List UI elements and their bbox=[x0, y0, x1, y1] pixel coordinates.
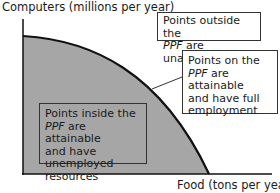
y-axis-label: Computers (millions per year) bbox=[2, 1, 174, 14]
annotation-text: PPF are attainable bbox=[45, 121, 141, 146]
annotation-text: and have unemployed bbox=[45, 146, 141, 171]
x-axis-label: Food (tons per year) bbox=[177, 179, 280, 192]
annotation-on: Points on the PPF are attainable and hav… bbox=[182, 50, 278, 114]
leader-line bbox=[152, 77, 182, 89]
annotation-text: resources bbox=[45, 171, 141, 184]
annotation-text: employment bbox=[188, 105, 272, 118]
annotation-inside: Points inside the PPF are attainable and… bbox=[39, 103, 147, 164]
annotation-outside: Points outside the PPF are unattainable bbox=[157, 12, 261, 41]
annotation-text: Points outside the bbox=[163, 15, 255, 40]
annotation-text: PPF are attainable bbox=[188, 68, 272, 93]
